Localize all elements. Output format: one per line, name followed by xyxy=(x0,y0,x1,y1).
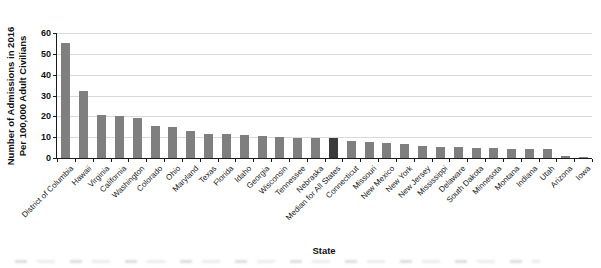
y-axis-line xyxy=(56,33,57,159)
y-tick-label: 0 xyxy=(31,153,51,163)
x-tick-mark xyxy=(75,159,76,162)
bar xyxy=(168,127,177,158)
x-tick-label: Iowa xyxy=(574,164,592,182)
bar xyxy=(240,135,249,158)
x-tick-mark xyxy=(396,159,397,162)
x-tick-mark xyxy=(289,159,290,162)
bar xyxy=(436,147,445,158)
bar xyxy=(222,134,231,158)
x-tick-mark xyxy=(449,159,450,162)
bar xyxy=(347,141,356,158)
x-tick-mark xyxy=(93,159,94,162)
gridline-40 xyxy=(57,75,592,76)
x-tick-mark xyxy=(467,159,468,162)
x-tick-mark xyxy=(271,159,272,162)
bar xyxy=(61,43,70,158)
x-tick-mark xyxy=(111,159,112,162)
gridline-50 xyxy=(57,54,592,55)
y-tick-label: 50 xyxy=(31,49,51,59)
bar xyxy=(507,149,516,158)
bar xyxy=(489,148,498,158)
bar xyxy=(186,131,195,158)
bar xyxy=(293,138,302,158)
bar xyxy=(472,148,481,158)
bar xyxy=(133,118,142,158)
x-tick-mark xyxy=(307,159,308,162)
x-tick-mark xyxy=(342,159,343,162)
x-tick-mark xyxy=(325,159,326,162)
bar xyxy=(115,116,124,158)
x-tick-mark xyxy=(200,159,201,162)
bar xyxy=(525,149,534,158)
median-bar xyxy=(329,138,338,158)
x-tick-mark xyxy=(128,159,129,162)
bar xyxy=(454,147,463,158)
gridline-30 xyxy=(57,96,592,97)
bar xyxy=(204,134,213,158)
x-tick-mark xyxy=(556,159,557,162)
x-tick-mark xyxy=(235,159,236,162)
x-tick-mark xyxy=(414,159,415,162)
bar xyxy=(400,144,409,158)
bar xyxy=(543,149,552,158)
bar xyxy=(258,136,267,158)
x-tick-mark xyxy=(218,159,219,162)
bar xyxy=(311,138,320,158)
x-tick-mark xyxy=(182,159,183,162)
x-tick-mark xyxy=(360,159,361,162)
x-tick-mark xyxy=(574,159,575,162)
x-tick-label: District of Columbia xyxy=(20,164,75,219)
cropped-caption-remnant xyxy=(15,260,540,263)
bar xyxy=(365,142,374,158)
bar xyxy=(418,146,427,159)
gridline-20 xyxy=(57,116,592,117)
y-tick-label: 20 xyxy=(31,111,51,121)
x-tick-mark xyxy=(432,159,433,162)
y-tick-label: 10 xyxy=(31,132,51,142)
x-tick-mark xyxy=(503,159,504,162)
x-tick-mark xyxy=(521,159,522,162)
x-axis-line xyxy=(56,158,592,159)
y-tick-label: 60 xyxy=(31,28,51,38)
gridline-60 xyxy=(57,33,592,34)
x-tick-mark xyxy=(592,159,593,162)
bar xyxy=(382,143,391,158)
x-tick-mark xyxy=(146,159,147,162)
x-tick-mark xyxy=(164,159,165,162)
bar xyxy=(275,137,284,158)
x-tick-mark xyxy=(253,159,254,162)
bar-chart-figure: Number of Admissions in 2016 Per 100,000… xyxy=(0,0,601,268)
y-tick-label: 30 xyxy=(31,91,51,101)
y-tick-label: 40 xyxy=(31,70,51,80)
x-axis-title: State xyxy=(312,245,335,256)
plot-area: 0102030405060District of ColumbiaHawaiiV… xyxy=(0,0,601,268)
bar xyxy=(151,126,160,158)
bar xyxy=(79,91,88,158)
x-tick-mark xyxy=(539,159,540,162)
x-tick-mark xyxy=(378,159,379,162)
x-tick-mark xyxy=(57,159,58,162)
x-tick-mark xyxy=(485,159,486,162)
bar xyxy=(97,115,106,158)
